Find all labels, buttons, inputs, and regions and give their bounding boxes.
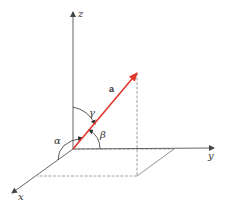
z-axis-label: z	[77, 8, 84, 19]
y-axis-label: y	[207, 150, 214, 161]
x-axis	[12, 149, 73, 193]
gamma-label: γ	[89, 107, 95, 118]
x-axis-label: x	[18, 191, 24, 202]
direction-angles-diagram: z y x a γ β α	[0, 0, 228, 210]
y-axis	[73, 148, 214, 149]
projection-edge-right	[137, 149, 174, 176]
alpha-label: α	[54, 135, 61, 146]
vector-a-label: a	[109, 84, 115, 94]
beta-label: β	[99, 129, 106, 140]
beta-arc	[89, 130, 100, 149]
